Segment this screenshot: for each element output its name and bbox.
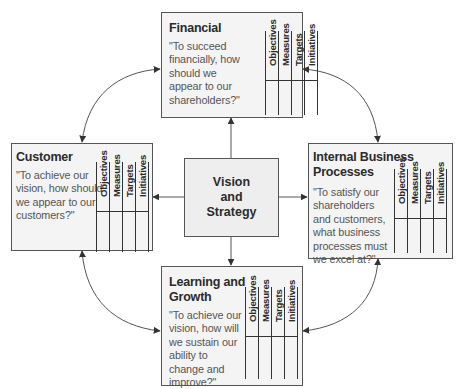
column-header-targets: Targets — [124, 164, 135, 197]
perspective-internal-business-processes: Internal Business Processes "To satisfy … — [308, 143, 453, 259]
column-header-targets: Targets — [422, 171, 433, 204]
perspective-title: Learning and Growth — [169, 275, 245, 305]
perspective-title: Financial — [169, 21, 221, 36]
column-header-objectives: Objectives — [396, 157, 407, 204]
scorecard-grid: Objectives Measures Targets Initiatives — [265, 31, 318, 115]
column-header-targets: Targets — [293, 33, 304, 66]
scorecard-grid: Objectives Measures Targets Initiatives — [245, 287, 298, 379]
perspective-title: Customer — [16, 150, 73, 165]
perspective-question: "To satisfy our shareholders and custome… — [313, 186, 387, 266]
perspective-question: "To succeed financially, how should we a… — [169, 40, 240, 107]
curve-customer-financial — [82, 69, 160, 142]
column-header-initiatives: Initiatives — [137, 155, 148, 197]
column-header-measures: Measures — [111, 154, 122, 197]
curve-learning-customer — [82, 251, 160, 331]
perspective-learning-and-growth: Learning and Growth "To achieve our visi… — [161, 266, 303, 386]
vision-and-strategy-label: Vision and Strategy — [206, 175, 256, 220]
scorecard-grid: Objectives Measures Targets Initiatives — [96, 162, 149, 252]
curve-internal-learning — [303, 259, 378, 331]
column-header-initiatives: Initiatives — [435, 162, 446, 204]
perspective-financial: Financial "To succeed financially, how s… — [161, 12, 303, 118]
column-header-measures: Measures — [260, 279, 271, 322]
perspective-question: "To achieve our vision, how will we sust… — [169, 309, 242, 389]
column-header-measures: Measures — [409, 161, 420, 204]
scorecard-grid: Objectives Measures Targets Initiatives — [394, 169, 447, 253]
vision-and-strategy-box: Vision and Strategy — [184, 158, 279, 237]
column-header-initiatives: Initiatives — [306, 24, 317, 66]
column-header-objectives: Objectives — [267, 19, 278, 66]
column-header-objectives: Objectives — [98, 150, 109, 197]
column-header-targets: Targets — [273, 289, 284, 322]
column-header-initiatives: Initiatives — [286, 280, 297, 322]
column-header-measures: Measures — [280, 23, 291, 66]
column-header-objectives: Objectives — [247, 275, 258, 322]
perspective-customer: Customer "To achieve our vision, how sho… — [11, 143, 153, 251]
perspective-question: "To achieve our vision, how should we ap… — [16, 169, 102, 223]
